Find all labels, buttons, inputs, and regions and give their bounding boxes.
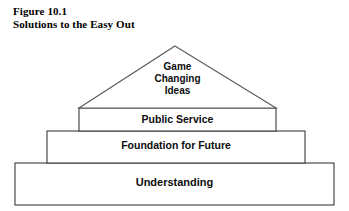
pyramid-diagram [0,0,349,211]
pyramid-tier-game-changing-ideas[interactable] [79,46,276,108]
pyramid-tier-foundation-for-future[interactable] [47,131,305,163]
pyramid-tier-public-service[interactable] [79,108,276,131]
figure-container: Figure 10.1 Solutions to the Easy Out Ga… [0,0,349,211]
pyramid-tier-understanding[interactable] [15,163,334,205]
